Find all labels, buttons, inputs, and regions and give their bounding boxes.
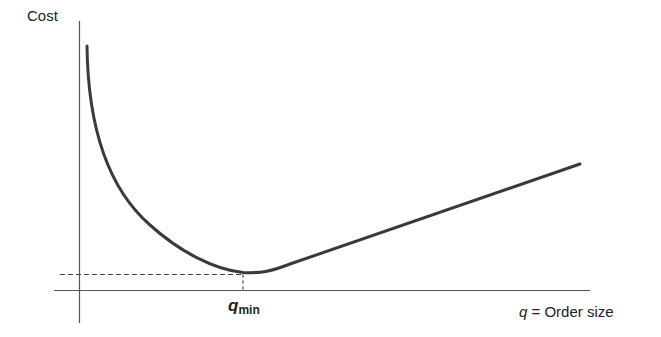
chart-canvas	[0, 0, 661, 337]
qmin-label: qmin	[228, 296, 260, 317]
y-axis-label: Cost	[27, 7, 58, 24]
qmin-subscript: min	[238, 303, 259, 317]
x-axis-text: = Order size	[527, 303, 613, 320]
x-axis-label: q = Order size	[519, 303, 614, 320]
total-cost-curve	[87, 46, 580, 273]
qmin-var: q	[228, 296, 238, 315]
